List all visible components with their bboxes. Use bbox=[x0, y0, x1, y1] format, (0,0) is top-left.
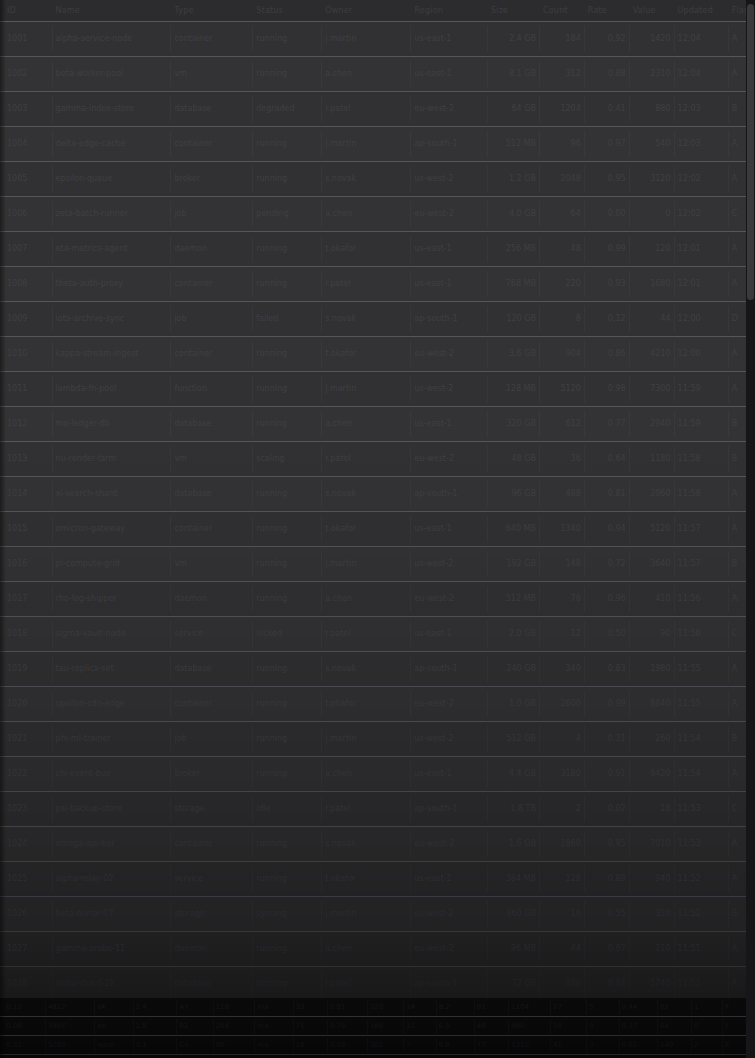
table-row[interactable]: 1004delta-edge-cachecontainerrunningj.ma… bbox=[0, 127, 755, 162]
column-header-count[interactable]: Count bbox=[540, 6, 585, 15]
cell-rate: 0.92 bbox=[585, 26, 630, 52]
table-row[interactable]: 1010kappa-stream-ingestcontainerrunningt… bbox=[0, 337, 755, 372]
cell-owner: a.chen bbox=[322, 936, 411, 962]
table-row[interactable]: 1009iota-archive-syncjobfaileds.novakap-… bbox=[0, 302, 755, 337]
table-row[interactable]: 1020upsilon-cdn-edgecontainerrunningt.ok… bbox=[0, 687, 755, 722]
table-row[interactable]: 1027gamma-probe-11daemonrunninga.cheneu-… bbox=[0, 932, 755, 967]
column-header-region[interactable]: Region bbox=[411, 6, 487, 15]
cell-count: 64 bbox=[540, 201, 585, 227]
cell-type: daemon bbox=[171, 586, 253, 612]
cell-region: eu-west-2 bbox=[411, 96, 487, 122]
table-row[interactable]: 1012mu-ledger-dbdatabaserunninga.chenus-… bbox=[0, 407, 755, 442]
table-body[interactable]: 1001alpha-service-nodecontainerrunningj.… bbox=[0, 22, 755, 998]
cell-rate: 0.96 bbox=[585, 586, 630, 612]
cell-rate: 0.86 bbox=[585, 341, 630, 367]
cell-count: 4 bbox=[540, 726, 585, 752]
cell-region: ap-south-1 bbox=[411, 481, 487, 507]
cell-value: 320 bbox=[630, 901, 675, 927]
cell-value: 90 bbox=[630, 621, 675, 647]
cell-region: us-east-1 bbox=[411, 61, 487, 87]
cell-type: database bbox=[171, 481, 253, 507]
cell-id: 1008 bbox=[4, 271, 53, 297]
cell-status: running bbox=[253, 831, 322, 857]
cell-size: 72 GB bbox=[488, 971, 540, 997]
table-row[interactable]: 1025alpha-relay-02servicerunningt.okafor… bbox=[0, 862, 755, 897]
vertical-scrollbar-track[interactable] bbox=[746, 0, 755, 1058]
cell-id: 1016 bbox=[4, 551, 53, 577]
cell-rate: 0.95 bbox=[585, 831, 630, 857]
cell-rate: 0.41 bbox=[585, 96, 630, 122]
table-row[interactable]: 1026beta-mirror-07storagesyncingj.martin… bbox=[0, 897, 755, 932]
table-row[interactable]: 1017rho-log-shipperdaemonrunninga.cheneu… bbox=[0, 582, 755, 617]
dense-row[interactable]: 0.315260warn3.1C496n/a180.5830179.877132… bbox=[0, 1036, 755, 1055]
table-row[interactable]: 1013nu-render-farmvmscalingr.pateleu-wes… bbox=[0, 442, 755, 477]
cell-name: alpha-service-node bbox=[53, 26, 172, 52]
cell-owner: a.chen bbox=[322, 761, 411, 787]
dense-row[interactable]: 0.124812ok2.4A7118n/a330.91220148.261110… bbox=[0, 998, 755, 1017]
column-header-updated[interactable]: Updated bbox=[675, 6, 729, 15]
table-row[interactable]: 1002beta-worker-poolvmrunninga.chenus-ea… bbox=[0, 57, 755, 92]
table-row[interactable]: 1021phi-ml-trainerjobrunningj.martinus-w… bbox=[0, 722, 755, 757]
table-row[interactable]: 1028delta-shard-19databaserunningr.patel… bbox=[0, 967, 755, 1002]
cell-type: storage bbox=[171, 796, 253, 822]
cell-owner: r.patel bbox=[322, 621, 411, 647]
cell-owner: s.novak bbox=[322, 481, 411, 507]
cell-region: ap-south-1 bbox=[411, 971, 487, 997]
table-row[interactable]: 1001alpha-service-nodecontainerrunningj.… bbox=[0, 22, 755, 57]
column-header-value[interactable]: Value bbox=[630, 6, 675, 15]
cell-type: broker bbox=[171, 761, 253, 787]
cell-value: 410 bbox=[630, 586, 675, 612]
table-row[interactable]: 1015omicron-gatewaycontainerrunningt.oka… bbox=[0, 512, 755, 547]
column-header-size[interactable]: Size bbox=[488, 6, 540, 15]
column-header-status[interactable]: Status bbox=[253, 6, 322, 15]
cell-type: container bbox=[171, 831, 253, 857]
dense-row[interactable]: 0.083907ok1.9B2204n/a710.76188226.548980… bbox=[0, 1017, 755, 1036]
cell-updated: 12:04 bbox=[675, 26, 729, 52]
cell-name: xi-search-shard bbox=[53, 481, 172, 507]
table-row[interactable]: 1014xi-search-sharddatabaserunnings.nova… bbox=[0, 477, 755, 512]
cell-name: omicron-gateway bbox=[53, 516, 172, 542]
cell-updated: 11:54 bbox=[675, 726, 729, 752]
table-row[interactable]: 1023psi-backup-storestorageidler.patelap… bbox=[0, 792, 755, 827]
cell-owner: a.chen bbox=[322, 411, 411, 437]
column-header-name[interactable]: Name bbox=[53, 6, 172, 15]
table-row[interactable]: 1006zeta-batch-runnerjobpendinga.cheneu-… bbox=[0, 197, 755, 232]
cell-rate: 0.98 bbox=[585, 376, 630, 402]
column-header-type[interactable]: Type bbox=[171, 6, 253, 15]
table-row[interactable]: 1019tau-replica-setdatabaserunnings.nova… bbox=[0, 652, 755, 687]
table-row[interactable]: 1016pi-compute-gridvmrunningj.martinus-w… bbox=[0, 547, 755, 582]
table-row[interactable]: 1018sigma-vault-nodeservicelockedr.patel… bbox=[0, 617, 755, 652]
table-row[interactable]: 1024omega-api-tiercontainerrunnings.nova… bbox=[0, 827, 755, 862]
cell-type: storage bbox=[171, 901, 253, 927]
cell-value: 1420 bbox=[630, 26, 675, 52]
dense-summary-block[interactable]: 0.124812ok2.4A7118n/a330.91220148.261110… bbox=[0, 998, 755, 1058]
table-row[interactable]: 1022chi-event-busbrokerrunninga.chenus-e… bbox=[0, 757, 755, 792]
cell-count: 220 bbox=[540, 271, 585, 297]
dense-cell-c10: 220 bbox=[368, 1000, 404, 1015]
cell-region: eu-west-2 bbox=[411, 936, 487, 962]
vertical-scrollbar-thumb[interactable] bbox=[747, 4, 754, 300]
column-header-rate[interactable]: Rate bbox=[585, 6, 630, 15]
column-header-id[interactable]: ID bbox=[4, 6, 53, 15]
dense-cell-c16: 5 bbox=[587, 1000, 619, 1015]
table-row[interactable]: 1008theta-auth-proxycontainerrunningr.pa… bbox=[0, 267, 755, 302]
cell-region: us-west-2 bbox=[411, 901, 487, 927]
cell-value: 3640 bbox=[630, 551, 675, 577]
cell-count: 1340 bbox=[540, 516, 585, 542]
cell-type: job bbox=[171, 306, 253, 332]
cell-region: ap-south-1 bbox=[411, 656, 487, 682]
column-header-owner[interactable]: Owner bbox=[322, 6, 411, 15]
cell-region: us-east-1 bbox=[411, 621, 487, 647]
cell-name: beta-mirror-07 bbox=[53, 901, 172, 927]
table-row[interactable]: 1007eta-metrics-agentdaemonrunningt.okaf… bbox=[0, 232, 755, 267]
table-row[interactable]: 1005epsilon-queuebrokerrunnings.novakus-… bbox=[0, 162, 755, 197]
cell-updated: 12:00 bbox=[675, 306, 729, 332]
app-window: IDNameTypeStatusOwnerRegionSizeCountRate… bbox=[0, 0, 755, 1058]
cell-rate: 0.02 bbox=[585, 796, 630, 822]
table-row[interactable]: 1011lambda-fn-poolfunctionrunningj.marti… bbox=[0, 372, 755, 407]
dense-cell-c02: 3907 bbox=[46, 1019, 95, 1034]
table-row[interactable]: 1003gamma-index-storedatabasedegradedr.p… bbox=[0, 92, 755, 127]
cell-rate: 0.99 bbox=[585, 236, 630, 262]
cell-updated: 11:58 bbox=[675, 481, 729, 507]
cell-status: running bbox=[253, 761, 322, 787]
